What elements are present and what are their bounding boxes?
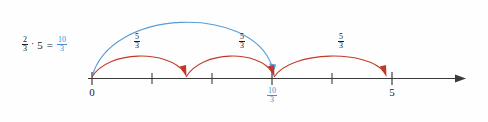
hop-label-1: 5 3 [134,31,140,50]
hop-arc-3 [274,56,384,77]
hop-denominator-1: 3 [134,42,140,50]
hop-label-3: 5 3 [338,31,344,50]
tick-label-ten-thirds: 10 3 [267,87,277,104]
hop-arc-2 [186,56,272,77]
hop-fraction-3: 5 3 [338,33,344,50]
hop-label-2: 5 3 [239,31,245,50]
tick-label-0: 0 [89,86,95,98]
number-line-svg [0,0,488,122]
tick-fraction-ten-thirds: 10 3 [267,87,277,104]
tick-denominator-ten-thirds: 3 [269,96,275,104]
number-line-figure: 2 3 · 5 = 10 3 [0,0,488,122]
hop-fraction-1: 5 3 [134,33,140,50]
hop-denominator-2: 3 [239,42,245,50]
hop-arrow-icon-3 [380,65,387,77]
tick-label-5: 5 [389,86,395,98]
right-arrow-icon [455,75,466,83]
hop-arc-1 [92,56,184,77]
hop-arrow-icon-2 [268,65,275,77]
hop-fraction-2: 5 3 [239,33,245,50]
hop-arrow-icon-1 [180,65,187,77]
hop-denominator-3: 3 [338,42,344,50]
